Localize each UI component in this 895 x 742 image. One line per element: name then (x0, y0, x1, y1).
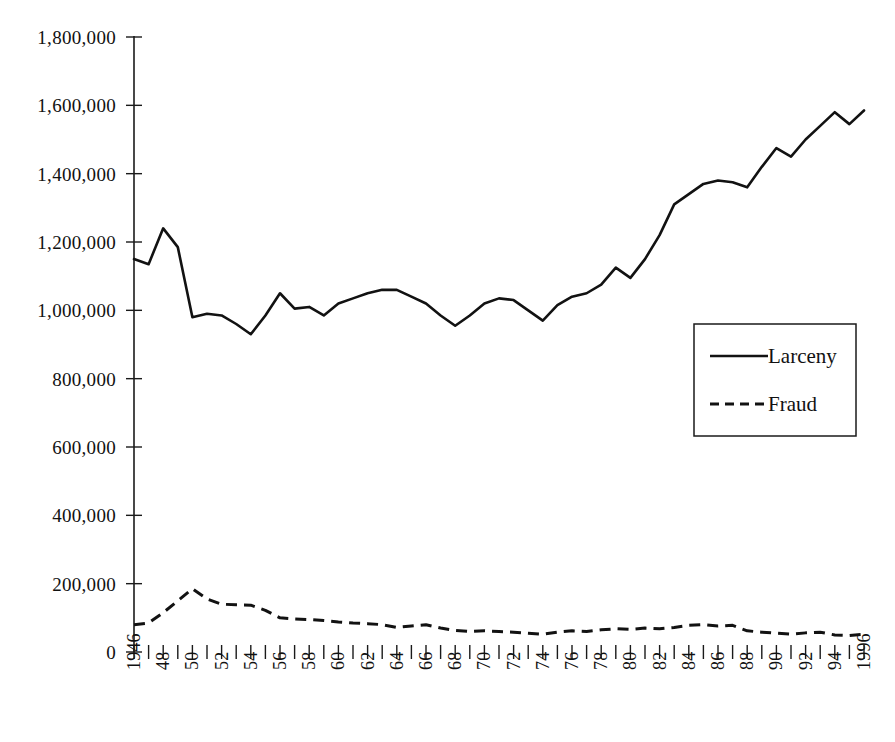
x-axis-tick-label: 58 (299, 652, 319, 670)
series-line-larceny (134, 110, 864, 334)
x-axis-tick-label: 60 (328, 652, 348, 670)
x-axis-tick-label: 54 (241, 652, 261, 670)
x-axis-tick-label: 92 (796, 652, 816, 670)
y-axis-tick-label: 1,600,000 (37, 95, 116, 116)
legend-label-fraud: Fraud (768, 392, 817, 416)
x-axis-tick-label: 70 (474, 652, 494, 670)
x-axis-tick-label: 62 (358, 652, 378, 670)
x-axis-tick-label: 64 (387, 652, 407, 670)
y-axis-tick-label: 1,400,000 (37, 164, 116, 185)
x-axis: 1946485052545658606264666870727476788082… (124, 633, 874, 670)
x-axis-tick-label: 48 (153, 652, 173, 670)
y-axis-tick-label: 600,000 (52, 437, 116, 458)
x-axis-tick-label: 88 (737, 652, 757, 670)
x-axis-tick-label: 94 (825, 652, 845, 670)
y-axis-tick-label: 200,000 (52, 574, 116, 595)
x-axis-tick-label: 1946 (124, 633, 144, 670)
series-line-fraud (134, 589, 864, 636)
x-axis-tick-label: 84 (679, 652, 699, 670)
y-axis-tick-label: 1,000,000 (37, 300, 116, 321)
y-axis: 0200,000400,000600,000800,0001,000,0001,… (37, 27, 142, 663)
y-axis-tick-label: 800,000 (52, 369, 116, 390)
x-axis-tick-label: 68 (445, 652, 465, 670)
x-axis-tick-label: 76 (562, 652, 582, 670)
x-axis-tick-label: 66 (416, 652, 436, 670)
x-axis-tick-label: 50 (182, 652, 202, 670)
x-axis-tick-label: 86 (708, 652, 728, 670)
x-axis-tick-label: 82 (650, 652, 670, 670)
x-axis-tick-label: 52 (212, 652, 232, 670)
legend: Larceny Fraud (694, 324, 856, 436)
y-axis-tick-label: 400,000 (52, 505, 116, 526)
x-axis-tick-label: 1996 (854, 633, 874, 670)
legend-label-larceny: Larceny (768, 344, 837, 368)
x-axis-tick-label: 78 (591, 652, 611, 670)
legend-box (694, 324, 856, 436)
y-axis-tick-label: 1,800,000 (37, 27, 116, 48)
x-axis-tick-label: 74 (533, 652, 553, 670)
chart-container: 0200,000400,000600,000800,0001,000,0001,… (0, 0, 895, 742)
line-chart: 0200,000400,000600,000800,0001,000,0001,… (0, 0, 895, 742)
y-axis-tick-label: 0 (106, 642, 116, 663)
x-axis-tick-label: 80 (620, 652, 640, 670)
y-axis-tick-label: 1,200,000 (37, 232, 116, 253)
x-axis-tick-label: 90 (766, 652, 786, 670)
x-axis-tick-label: 56 (270, 652, 290, 670)
x-axis-tick-label: 72 (504, 652, 524, 670)
